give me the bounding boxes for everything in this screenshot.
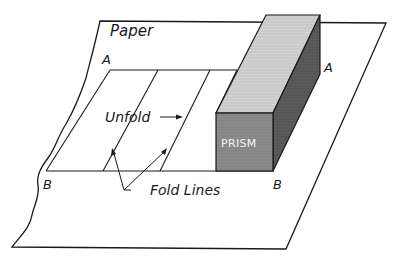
paper-label: Paper <box>110 24 153 39</box>
fold-lines-label: Fold Lines <box>150 183 220 197</box>
prism-label: PRISM <box>221 138 257 149</box>
corner-b-right-label: B <box>273 178 282 191</box>
diagram-drawing <box>0 0 393 268</box>
corner-a-left-label: A <box>102 53 111 66</box>
prism-unfold-diagram: Paper A A B B Unfold Fold Lines PRISM <box>0 0 393 268</box>
paper-sheet <box>12 21 386 249</box>
corner-a-right-label: A <box>324 61 333 74</box>
corner-b-left-label: B <box>43 178 52 191</box>
unfold-label: Unfold <box>105 110 150 124</box>
